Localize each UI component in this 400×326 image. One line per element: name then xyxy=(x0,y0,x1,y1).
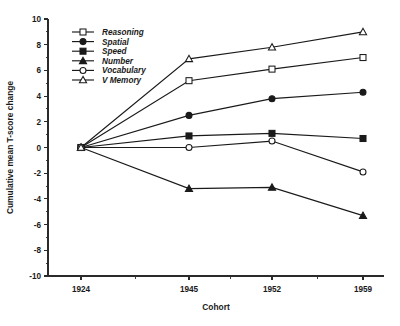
legend-item-v-memory: V Memory xyxy=(72,76,142,85)
series-spatial xyxy=(78,89,366,150)
legend-label: Vocabulary xyxy=(102,66,146,75)
series-line xyxy=(81,141,363,172)
legend-label: Speed xyxy=(102,47,128,56)
legend-item-reasoning: Reasoning xyxy=(72,28,144,37)
legend-marker xyxy=(80,48,86,54)
data-point xyxy=(269,66,275,72)
y-tick-label: 4 xyxy=(36,92,41,101)
series-line xyxy=(81,92,363,147)
x-tick-label: 1924 xyxy=(72,285,91,294)
data-point xyxy=(186,78,192,84)
y-tick-label: -4 xyxy=(34,195,42,204)
data-point xyxy=(360,136,366,142)
y-tick-label: -6 xyxy=(34,221,42,230)
legend-marker xyxy=(80,67,86,73)
y-tick-label: 6 xyxy=(36,66,41,75)
y-axis-tick-labels: 1086420-2-4-6-8-10 xyxy=(29,15,41,281)
data-point xyxy=(186,133,192,139)
legend-label: Reasoning xyxy=(102,28,144,37)
x-axis-ticks xyxy=(81,276,363,280)
y-tick-label: -8 xyxy=(34,246,42,255)
x-tick-label: 1945 xyxy=(180,285,199,294)
data-point xyxy=(360,89,366,95)
y-tick-label: -10 xyxy=(29,272,41,281)
data-point xyxy=(269,138,275,144)
legend-label: V Memory xyxy=(102,76,142,85)
legend-marker xyxy=(80,39,86,45)
data-point xyxy=(359,28,366,34)
chart-legend: ReasoningSpatialSpeedNumberVocabularyV M… xyxy=(72,28,146,85)
y-tick-label: 8 xyxy=(36,41,41,50)
y-tick-label: -2 xyxy=(34,169,42,178)
legend-item-spatial: Spatial xyxy=(72,38,130,47)
y-tick-label: 2 xyxy=(36,118,41,127)
x-tick-label: 1959 xyxy=(354,285,373,294)
legend-marker xyxy=(80,29,86,35)
legend-item-vocabulary: Vocabulary xyxy=(72,66,146,75)
data-point xyxy=(269,130,275,136)
legend-label: Spatial xyxy=(102,38,130,47)
data-point xyxy=(186,145,192,151)
x-axis-tick-labels: 1924194519521959 xyxy=(72,285,373,294)
y-tick-label: 0 xyxy=(36,144,41,153)
data-point xyxy=(360,55,366,61)
y-axis-ticks xyxy=(44,19,48,276)
line-chart: 1086420-2-4-6-8-10 1924194519521959 Reas… xyxy=(0,0,400,326)
legend-item-number: Number xyxy=(72,57,134,66)
x-tick-label: 1952 xyxy=(263,285,282,294)
legend-label: Number xyxy=(102,57,134,66)
data-point xyxy=(186,112,192,118)
figure-container: 1086420-2-4-6-8-10 1924194519521959 Reas… xyxy=(0,0,400,326)
data-point xyxy=(269,96,275,102)
legend-item-speed: Speed xyxy=(72,47,128,56)
y-tick-label: 10 xyxy=(32,15,42,24)
series-number xyxy=(77,144,366,219)
data-point xyxy=(360,169,366,175)
x-axis-title: Cohort xyxy=(202,302,230,312)
y-axis-title: Cumulative mean T-score change xyxy=(5,81,15,214)
